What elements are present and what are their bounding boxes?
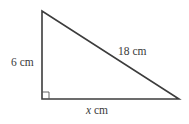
label-horizontal-side: x cm <box>85 104 108 116</box>
unit-cm: cm <box>91 104 108 116</box>
triangle-outline <box>42 11 179 99</box>
label-hypotenuse: 18 cm <box>118 45 146 57</box>
triangle-diagram: 6 cm 18 cm x cm <box>0 0 189 124</box>
right-angle-marker <box>42 92 49 99</box>
label-vertical-side: 6 cm <box>11 56 34 68</box>
